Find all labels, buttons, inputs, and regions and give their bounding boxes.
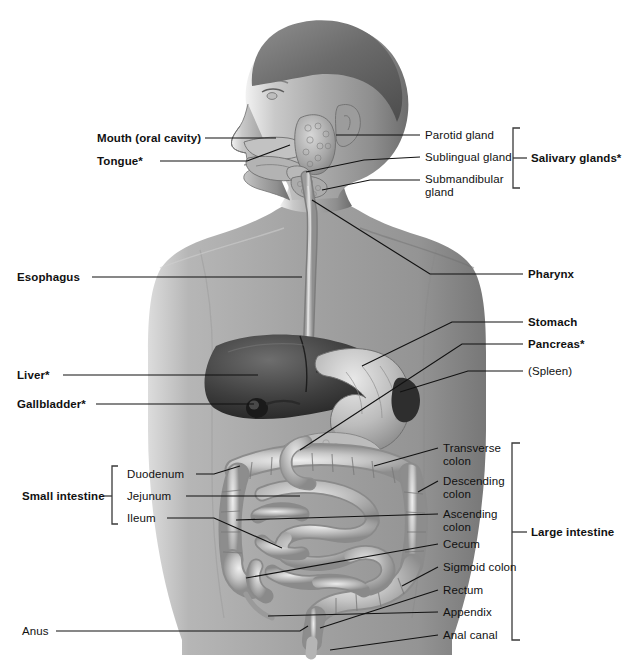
label-transverse-colon: Transverse colon bbox=[443, 442, 501, 467]
label-jejunum: Jejunum bbox=[127, 490, 171, 503]
label-mouth: Mouth (oral cavity) bbox=[97, 132, 201, 145]
label-spleen: (Spleen) bbox=[528, 365, 572, 378]
label-appendix: Appendix bbox=[443, 606, 492, 619]
label-pharynx: Pharynx bbox=[528, 268, 574, 281]
label-rectum: Rectum bbox=[443, 584, 483, 597]
anatomy-illustration bbox=[0, 0, 632, 661]
label-submandibular-gland: Submandibular gland bbox=[425, 173, 504, 198]
label-ileum: Ileum bbox=[127, 512, 156, 525]
label-parotid-gland: Parotid gland bbox=[425, 129, 494, 142]
label-sigmoid-colon: Sigmoid colon bbox=[443, 561, 517, 574]
label-esophagus: Esophagus bbox=[17, 271, 80, 284]
bracket-large-intestine bbox=[512, 443, 520, 640]
bracket-small-intestine bbox=[112, 466, 118, 524]
label-duodenum: Duodenum bbox=[127, 468, 184, 481]
label-descending-colon: Descending colon bbox=[443, 475, 505, 500]
label-cecum: Cecum bbox=[443, 538, 480, 551]
pharynx-and-esophagus bbox=[306, 176, 312, 356]
label-stomach: Stomach bbox=[528, 316, 577, 329]
label-pancreas: Pancreas* bbox=[528, 338, 585, 351]
label-ascending-colon: Ascending colon bbox=[443, 508, 498, 533]
label-tongue: Tongue* bbox=[97, 155, 143, 168]
label-gallbladder: Gallbladder* bbox=[17, 398, 86, 411]
label-small-intestine: Small intestine bbox=[22, 490, 105, 503]
label-large-intestine: Large intestine bbox=[531, 526, 614, 539]
digestive-system-diagram: Mouth (oral cavity) Tongue* Esophagus Li… bbox=[0, 0, 632, 661]
label-sublingual-gland: Sublingual gland bbox=[425, 151, 512, 164]
label-anal-canal: Anal canal bbox=[443, 629, 498, 642]
label-salivary-glands: Salivary glands* bbox=[531, 152, 621, 165]
label-liver: Liver* bbox=[17, 369, 50, 382]
label-anus: Anus bbox=[22, 625, 49, 638]
